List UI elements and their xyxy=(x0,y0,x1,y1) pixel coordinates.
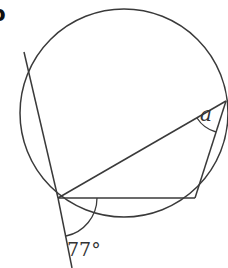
circle-theorem-diagram: b 77° a xyxy=(0,0,228,268)
angle-label-a: a xyxy=(200,102,212,126)
question-part-label: b xyxy=(0,1,6,26)
circle xyxy=(20,9,228,217)
angle-arc-77 xyxy=(66,198,97,236)
angle-label-77: 77° xyxy=(67,238,101,260)
